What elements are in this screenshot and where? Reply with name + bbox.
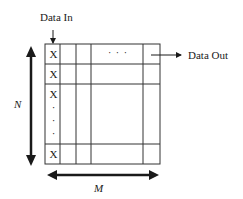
vertical-ellipsis-2: · [46, 114, 61, 126]
array-diagram [0, 0, 243, 199]
cell-x-row-3: X [46, 88, 61, 100]
vertical-ellipsis-1: · [46, 101, 61, 113]
data-in-label: Data In [40, 11, 73, 23]
cell-x-row-last: X [46, 148, 61, 160]
cell-x-row-1: X [46, 48, 61, 60]
m-dimension-arrow [47, 170, 159, 180]
cell-x-row-2: X [46, 68, 61, 80]
m-label: M [94, 182, 103, 194]
n-dimension-arrow [26, 46, 36, 166]
horizontal-ellipsis: · · · [108, 47, 128, 59]
grid-column-lines [60, 44, 143, 164]
n-label: N [14, 98, 21, 110]
data-out-label: Data Out [188, 49, 228, 61]
vertical-ellipsis-3: · [46, 127, 61, 139]
